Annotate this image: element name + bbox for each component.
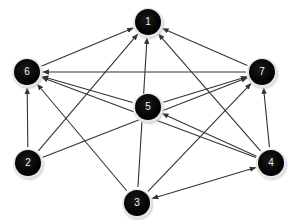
edge-2-to-6 (27, 88, 28, 147)
node-4: 4 (258, 150, 284, 176)
node-3: 3 (124, 190, 150, 216)
node-7: 7 (249, 59, 275, 85)
node-1: 1 (135, 9, 161, 35)
edge-5-to-6 (42, 76, 132, 102)
edge-7-to-1 (163, 28, 248, 65)
edge-3-to-7 (148, 84, 251, 192)
edge-5-to-7 (163, 77, 246, 103)
edge-2-to-1 (38, 34, 137, 151)
edge-3-to-4 (152, 168, 255, 199)
edge-4-to-7 (264, 88, 270, 147)
node-6: 6 (14, 59, 40, 85)
node-5: 5 (135, 94, 161, 120)
edge-4-to-5 (163, 114, 257, 157)
node-2: 2 (15, 150, 41, 176)
edge-6-to-1 (42, 28, 133, 66)
